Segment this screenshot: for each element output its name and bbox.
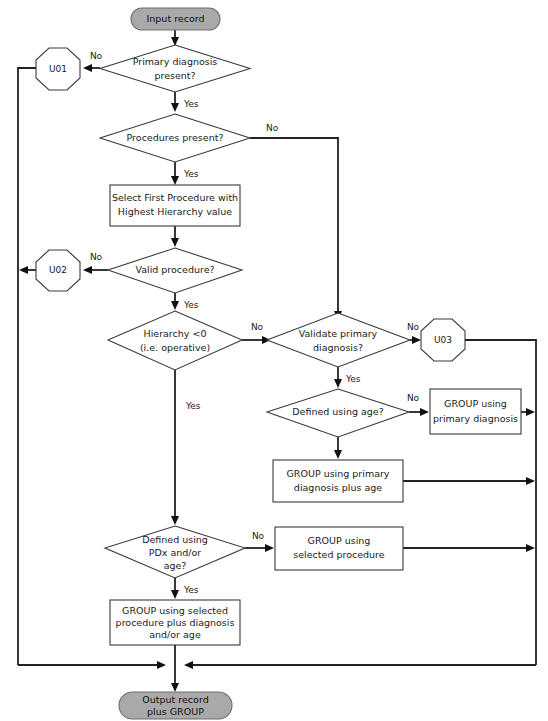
decision-validate-primary-line1: Validate primary [299, 328, 378, 339]
error-node-u03[interactable]: U03 [421, 319, 465, 361]
process-group-selected-plus-line3: and/or age [149, 629, 201, 640]
process-group-primary-line1: GROUP using [444, 398, 507, 409]
edge-u01-to-left-bus [18, 68, 36, 665]
process-group-using-selected-plus[interactable]: GROUP using selected procedure plus diag… [110, 600, 240, 645]
error-node-u02-label: U02 [49, 265, 67, 275]
decision-hierarchy-line2: (i.e. operative) [140, 342, 210, 353]
decision-valid-procedure-line1: Valid procedure? [135, 264, 214, 275]
edge-hierarchy-yes-to-defined-pdx [171, 370, 179, 525]
terminal-output-record[interactable]: Output record plus GROUP [119, 692, 232, 719]
edge-right-bus-to-output-junction [184, 661, 536, 669]
decision-defined-pdx-line3: age? [164, 560, 187, 571]
decision-valid-procedure[interactable]: Valid procedure? [108, 248, 242, 293]
decision-defined-age-line1: Defined using age? [292, 406, 383, 417]
decision-defined-using-pdx[interactable]: Defined using PDx and/or age? [105, 526, 245, 578]
terminal-output-record-line2: plus GROUP [147, 706, 204, 717]
edge-defined-age-down-to-group-primary-age [334, 437, 342, 459]
process-group-using-primary-diagnosis[interactable]: GROUP using primary diagnosis [430, 389, 521, 434]
edge-procedures-no-to-validate-primary [250, 138, 342, 320]
edge-u02-to-left-bus [19, 266, 36, 274]
process-group-primary-age-line1: GROUP using primary [286, 468, 389, 479]
decision-validate-primary-line2: diagnosis? [313, 342, 363, 353]
terminal-input-record[interactable]: Input record [131, 8, 220, 30]
label-validate-primary-yes: Yes [345, 374, 361, 384]
terminal-input-record-label: Input record [147, 13, 205, 24]
decision-defined-pdx-line1: Defined using [142, 534, 208, 545]
process-group-selected-plus-line2: procedure plus diagnosis [116, 617, 235, 628]
error-node-u01[interactable]: U01 [36, 48, 80, 90]
edge-primary-diagnosis-yes-to-procedures [171, 92, 179, 112]
process-group-selected-line1: GROUP using [308, 535, 371, 546]
edge-group-selected-plus-to-output [171, 645, 179, 692]
edge-select-procedure-to-valid-procedure [171, 226, 179, 247]
decision-primary-diagnosis-line2: present? [154, 70, 195, 81]
error-node-u03-label: U03 [434, 335, 452, 345]
error-node-u01-label: U01 [49, 64, 67, 74]
edge-valid-procedure-yes-to-hierarchy [171, 293, 179, 310]
edge-primary-diagnosis-no-to-u01 [83, 64, 100, 72]
label-procedures-present-no: No [266, 123, 279, 133]
edge-left-bus-to-output-junction [18, 661, 166, 669]
decision-hierarchy-operative[interactable]: Hierarchy <0 (i.e. operative) [108, 311, 242, 370]
flowchart-canvas: Input record Primary diagnosis present? … [0, 0, 548, 721]
label-primary-diagnosis-yes: Yes [183, 99, 199, 109]
decision-hierarchy-line1: Hierarchy <0 [144, 328, 207, 339]
flowchart-svg: Input record Primary diagnosis present? … [0, 0, 548, 721]
decision-procedures-present[interactable]: Procedures present? [100, 114, 250, 162]
error-node-u02[interactable]: U02 [36, 250, 80, 291]
terminal-output-record-line1: Output record [142, 694, 208, 705]
label-primary-diagnosis-no: No [90, 51, 103, 61]
process-group-using-primary-plus-age[interactable]: GROUP using primary diagnosis plus age [273, 460, 403, 502]
process-group-primary-line2: primary diagnosis [433, 413, 518, 424]
label-hierarchy-yes: Yes [185, 401, 201, 411]
label-validate-primary-no: No [407, 322, 420, 332]
edge-defined-pdx-no-to-group-selected [245, 544, 274, 552]
label-procedures-present-yes: Yes [183, 169, 199, 179]
label-valid-procedure-no: No [90, 252, 103, 262]
edge-defined-pdx-yes-to-group-selected-plus [171, 578, 179, 599]
edge-group-primary-to-right-bus [521, 408, 535, 416]
decision-procedures-present-line1: Procedures present? [127, 132, 224, 143]
process-select-first-procedure-line2: Highest Hierarchy value [118, 206, 232, 217]
edge-valid-procedure-no-to-u02 [83, 266, 108, 274]
process-group-using-selected-procedure[interactable]: GROUP using selected procedure [275, 527, 403, 570]
process-select-first-procedure[interactable]: Select First Procedure with Highest Hier… [110, 185, 240, 226]
decision-validate-primary-diagnosis[interactable]: Validate primary diagnosis? [267, 313, 410, 367]
edge-validate-primary-yes-to-defined-age [334, 367, 342, 388]
process-group-selected-line2: selected procedure [293, 549, 384, 560]
edge-validate-primary-no-to-u03 [410, 336, 421, 344]
edge-defined-age-no-to-group-primary [409, 408, 429, 416]
decision-defined-pdx-line2: PDx and/or [149, 547, 202, 558]
label-defined-pdx-yes: Yes [183, 585, 199, 595]
decision-primary-diagnosis-line1: Primary diagnosis [133, 56, 218, 67]
process-select-first-procedure-line1: Select First Procedure with [112, 192, 238, 203]
edge-input-to-primary-diagnosis [171, 30, 179, 46]
decision-primary-diagnosis-present[interactable]: Primary diagnosis present? [100, 45, 250, 92]
edge-group-primary-age-to-right-bus [403, 477, 535, 485]
label-defined-pdx-no: No [252, 531, 265, 541]
label-valid-procedure-yes: Yes [183, 300, 199, 310]
edge-group-selected-to-right-bus [403, 544, 535, 552]
label-defined-age-no: No [407, 393, 420, 403]
decision-defined-using-age[interactable]: Defined using age? [267, 389, 409, 437]
process-group-selected-plus-line1: GROUP using selected [122, 605, 228, 616]
edge-procedures-yes-to-select-procedure [171, 162, 179, 185]
process-group-primary-age-line2: diagnosis plus age [294, 482, 382, 493]
label-hierarchy-no: No [251, 322, 264, 332]
